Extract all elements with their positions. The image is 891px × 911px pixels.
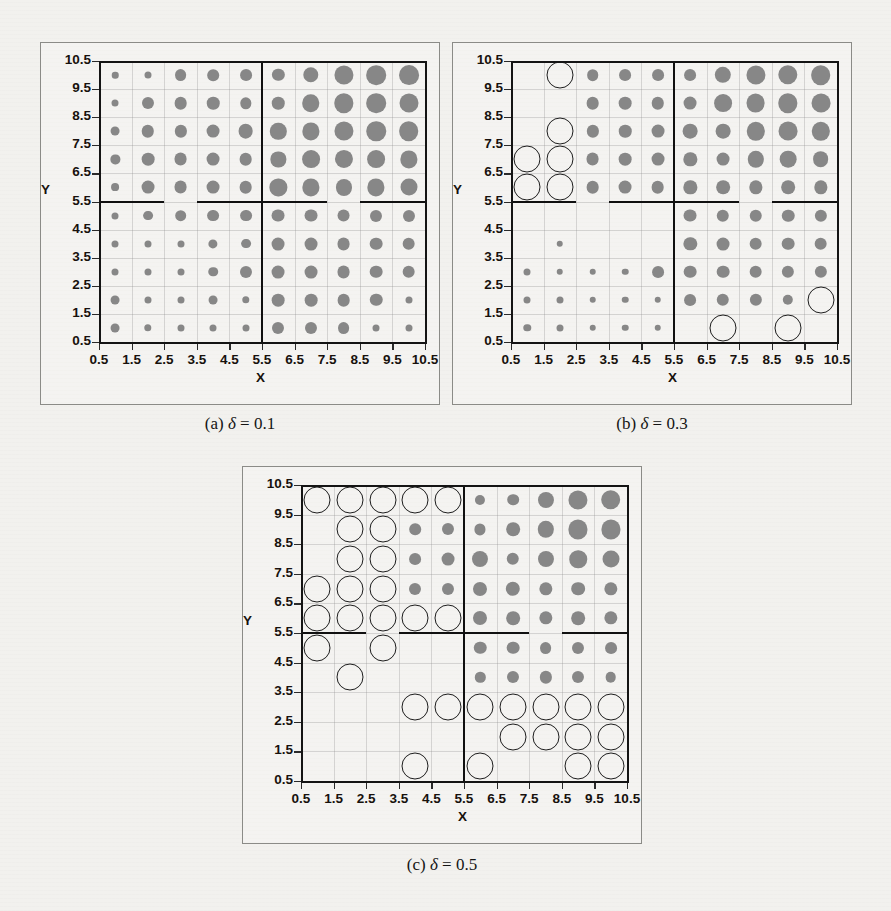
- data-bubble: [409, 524, 421, 536]
- x-tick: [609, 344, 610, 350]
- data-bubble: [473, 611, 487, 625]
- data-bubble: [814, 181, 827, 194]
- data-bubble: [622, 325, 629, 332]
- data-bubble: [271, 152, 286, 167]
- data-bubble: [403, 210, 415, 222]
- axis-left: [511, 61, 513, 342]
- flagged-cell-circle: [514, 146, 541, 173]
- data-bubble: [304, 265, 317, 278]
- data-bubble: [654, 297, 661, 304]
- y-tick-label: 6.5: [47, 164, 91, 179]
- data-bubble: [684, 294, 696, 306]
- x-tick: [641, 344, 642, 350]
- x-tick: [772, 344, 773, 350]
- data-bubble: [304, 237, 317, 250]
- x-tick-label: 3.5: [181, 352, 213, 367]
- data-bubble: [811, 94, 830, 113]
- flagged-cell-circle: [336, 546, 363, 573]
- data-bubble: [749, 181, 762, 194]
- x-tick: [707, 344, 708, 350]
- x-tick: [360, 344, 361, 350]
- x-tick: [262, 344, 263, 350]
- y-tick: [294, 544, 301, 545]
- x-axis-title: X: [668, 370, 677, 385]
- data-bubble: [142, 125, 154, 137]
- x-tick: [229, 344, 230, 350]
- y-tick-label: 5.5: [459, 193, 503, 208]
- y-tick-label: 2.5: [459, 277, 503, 292]
- data-bubble: [717, 294, 729, 306]
- data-bubble: [272, 294, 285, 307]
- data-bubble: [524, 296, 531, 303]
- data-bubble: [815, 209, 827, 221]
- y-tick: [92, 314, 99, 315]
- x-tick: [594, 783, 595, 789]
- y-tick-label: 4.5: [459, 221, 503, 236]
- partition-line-horizontal: [562, 632, 627, 634]
- panel-a-caption: (a) δ = 0.1: [40, 414, 440, 434]
- data-bubble: [540, 642, 552, 654]
- y-tick-label: 6.5: [249, 594, 293, 609]
- x-tick-label: 0.5: [285, 791, 317, 806]
- data-bubble: [334, 150, 352, 168]
- flagged-cell-circle: [336, 605, 363, 632]
- data-bubble: [111, 323, 120, 332]
- data-bubble: [684, 97, 697, 110]
- x-tick: [425, 344, 426, 350]
- x-tick-label: 4.5: [415, 791, 447, 806]
- data-bubble: [399, 121, 419, 141]
- y-tick: [294, 574, 301, 575]
- y-tick-label: 8.5: [459, 108, 503, 123]
- data-bubble: [334, 65, 353, 84]
- flagged-cell-circle: [546, 118, 573, 145]
- panel-a-plot: 0.51.52.53.54.55.56.57.58.59.510.5X0.51.…: [41, 43, 439, 404]
- data-bubble: [242, 296, 249, 303]
- data-bubble: [717, 265, 730, 278]
- data-bubble: [442, 523, 454, 535]
- partition-line-horizontal: [399, 632, 529, 634]
- axis-top: [511, 61, 837, 63]
- y-tick: [294, 722, 301, 723]
- data-bubble: [749, 265, 762, 278]
- x-tick: [544, 344, 545, 350]
- data-bubble: [654, 325, 661, 332]
- data-bubble: [781, 181, 795, 195]
- axis-left: [301, 485, 303, 781]
- flagged-cell-circle: [369, 486, 396, 513]
- data-bubble: [780, 151, 797, 168]
- flagged-cell-circle: [434, 605, 461, 632]
- y-tick: [504, 117, 511, 118]
- x-tick: [576, 344, 577, 350]
- data-bubble: [207, 125, 220, 138]
- x-tick-label: 3.5: [383, 791, 415, 806]
- x-tick-label: 9.5: [376, 352, 408, 367]
- data-bubble: [370, 265, 383, 278]
- flagged-cell-circle: [532, 694, 559, 721]
- data-bubble: [366, 93, 386, 113]
- data-bubble: [240, 97, 251, 108]
- data-bubble: [715, 67, 731, 83]
- data-bubble: [241, 239, 251, 249]
- figure-container: 0.51.52.53.54.55.56.57.58.59.510.5X0.51.…: [0, 0, 891, 911]
- data-bubble: [405, 324, 412, 331]
- y-tick-label: 9.5: [47, 80, 91, 95]
- y-tick: [294, 663, 301, 664]
- data-bubble: [111, 155, 120, 164]
- data-bubble: [813, 151, 829, 167]
- data-bubble: [177, 268, 184, 275]
- gridline-vertical: [739, 61, 740, 342]
- data-bubble: [399, 94, 418, 113]
- data-bubble: [539, 671, 551, 683]
- data-bubble: [473, 582, 487, 596]
- data-bubble: [602, 551, 619, 568]
- data-bubble: [272, 322, 284, 334]
- data-bubble: [589, 325, 596, 332]
- data-bubble: [506, 581, 520, 595]
- data-bubble: [272, 265, 285, 278]
- x-tick-label: 2.5: [560, 352, 592, 367]
- data-bubble: [604, 612, 617, 625]
- data-bubble: [144, 240, 151, 247]
- y-tick-label: 2.5: [249, 713, 293, 728]
- x-tick: [164, 344, 165, 350]
- x-tick: [674, 344, 675, 350]
